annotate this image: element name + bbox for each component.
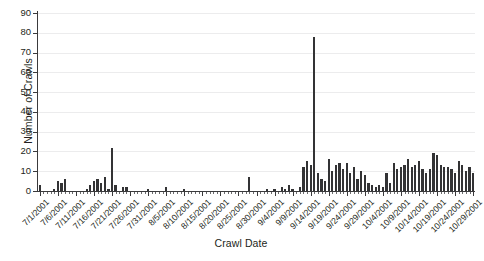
x-axis-tick-minor xyxy=(282,192,283,194)
bar xyxy=(400,167,402,191)
x-axis-tick-minor xyxy=(289,192,290,194)
x-axis-tick-major xyxy=(130,192,131,196)
x-axis-tick-major xyxy=(365,192,366,196)
x-axis-tick-minor xyxy=(372,192,373,194)
y-axis-tick-label: 0 xyxy=(1,185,31,196)
y-axis-tick: 30 xyxy=(0,132,38,133)
y-axis-tick-label: 70 xyxy=(1,46,31,57)
x-axis-tick-minor xyxy=(231,192,232,194)
bar xyxy=(273,189,275,191)
bar xyxy=(93,181,95,191)
bar xyxy=(349,173,351,191)
x-axis-tick-minor xyxy=(314,192,315,194)
bar xyxy=(147,189,149,191)
x-axis-tick-minor xyxy=(228,192,229,194)
bar xyxy=(335,165,337,191)
x-axis-tick-minor xyxy=(322,192,323,194)
x-axis-tick-minor xyxy=(267,192,268,194)
x-axis-tick-major xyxy=(419,192,420,196)
x-axis-tick-minor xyxy=(134,192,135,194)
x-axis-tick-minor xyxy=(235,192,236,194)
bar xyxy=(114,185,116,191)
y-axis-title: Number of Crawls xyxy=(22,21,34,181)
y-axis-tick-mark xyxy=(33,191,38,192)
x-axis-tick-major xyxy=(383,192,384,196)
x-axis-tick-major xyxy=(112,192,113,196)
x-axis-tick-minor xyxy=(368,192,369,194)
bar xyxy=(284,189,286,191)
x-axis-tick-major xyxy=(202,192,203,196)
bar xyxy=(375,187,377,191)
x-axis-tick-minor xyxy=(242,192,243,194)
bar xyxy=(447,167,449,191)
x-axis-tick-major xyxy=(347,192,348,196)
bar xyxy=(281,187,283,191)
x-axis-tick-minor xyxy=(408,192,409,194)
y-axis-tick: 20 xyxy=(0,151,38,152)
x-axis-tick-minor xyxy=(278,192,279,194)
bar xyxy=(313,37,315,191)
bar xyxy=(472,173,474,191)
bar xyxy=(338,163,340,191)
x-axis-tick-minor xyxy=(47,192,48,194)
bar xyxy=(324,181,326,191)
x-axis-tick-minor xyxy=(137,192,138,194)
x-axis-tick-minor xyxy=(452,192,453,194)
x-axis-tick-minor xyxy=(271,192,272,194)
y-axis-tick: 50 xyxy=(0,92,38,93)
x-axis-tick-minor xyxy=(90,192,91,194)
x-axis-tick-minor xyxy=(405,192,406,194)
bar xyxy=(450,169,452,191)
y-axis-tick: 80 xyxy=(0,33,38,34)
bar xyxy=(396,169,398,191)
bar xyxy=(317,173,319,191)
x-axis-tick-minor xyxy=(318,192,319,194)
bar xyxy=(389,183,391,191)
x-axis-tick-minor xyxy=(448,192,449,194)
x-axis-tick-minor xyxy=(397,192,398,194)
x-axis-tick-major xyxy=(293,192,294,196)
x-axis-tick-minor xyxy=(303,192,304,194)
bar xyxy=(60,183,62,191)
bar xyxy=(418,161,420,191)
x-axis-tick-minor xyxy=(343,192,344,194)
bar xyxy=(39,185,41,191)
x-axis-tick-minor xyxy=(264,192,265,194)
bar xyxy=(310,165,312,191)
bar xyxy=(346,163,348,191)
x-axis-tick-minor xyxy=(441,192,442,194)
x-axis-tick-major xyxy=(220,192,221,196)
x-axis-tick-minor xyxy=(163,192,164,194)
x-axis-tick-minor xyxy=(152,192,153,194)
x-axis-tick-minor xyxy=(61,192,62,194)
x-axis-tick-minor xyxy=(376,192,377,194)
bar xyxy=(183,189,185,191)
bar xyxy=(57,181,59,191)
bar xyxy=(385,173,387,191)
x-axis-tick-major xyxy=(148,192,149,196)
x-axis-tick-minor xyxy=(430,192,431,194)
x-axis-tick-minor xyxy=(246,192,247,194)
x-axis-tick-minor xyxy=(210,192,211,194)
x-axis-tick-minor xyxy=(199,192,200,194)
x-axis-tick-minor xyxy=(173,192,174,194)
x-axis-tick-major xyxy=(40,192,41,196)
x-axis-tick-minor xyxy=(195,192,196,194)
x-axis-tick-minor xyxy=(300,192,301,194)
bar-series xyxy=(38,13,475,191)
x-axis-title: Crawl Date xyxy=(0,237,482,249)
y-axis-tick: 70 xyxy=(0,53,38,54)
x-axis-tick-minor xyxy=(181,192,182,194)
x-axis-tick-minor xyxy=(224,192,225,194)
y-axis-tick: 90 xyxy=(0,13,38,14)
bar xyxy=(328,159,330,191)
x-axis-tick-minor xyxy=(83,192,84,194)
y-axis-tick-label: 30 xyxy=(1,125,31,136)
y-axis-tick-label: 60 xyxy=(1,66,31,77)
x-axis-tick-minor xyxy=(123,192,124,194)
x-axis-tick-minor xyxy=(325,192,326,194)
x-axis-tick-minor xyxy=(433,192,434,194)
x-axis-tick-minor xyxy=(54,192,55,194)
x-axis-tick-minor xyxy=(155,192,156,194)
x-axis-tick-minor xyxy=(119,192,120,194)
